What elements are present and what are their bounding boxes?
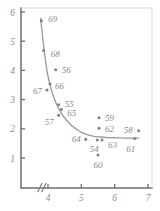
data-point-58[interactable] — [137, 129, 140, 132]
data-point-59[interactable] — [98, 116, 101, 119]
data-point-69[interactable] — [40, 19, 43, 22]
y-tick-label-2: 2 — [10, 124, 15, 134]
y-tick-label-4: 4 — [10, 66, 15, 76]
chart-background — [0, 0, 160, 211]
data-point-65[interactable] — [60, 108, 63, 111]
point-label-63: 63 — [108, 140, 118, 150]
x-tick-label-4: 4 — [46, 193, 51, 203]
point-label-58: 58 — [124, 125, 134, 135]
point-label-54: 54 — [90, 144, 100, 154]
x-tick-label-5: 5 — [79, 193, 84, 203]
data-point-56[interactable] — [54, 68, 57, 71]
y-tick-label-3: 3 — [9, 95, 15, 105]
data-point-67[interactable] — [46, 88, 49, 91]
point-label-64: 64 — [72, 134, 82, 144]
data-point-68[interactable] — [42, 49, 45, 52]
scatter-chart: 4567 123456 6968566667556557596258645463… — [0, 0, 160, 211]
point-label-60: 60 — [94, 160, 104, 170]
y-tick-label-6: 6 — [10, 8, 15, 18]
data-point-62[interactable] — [98, 127, 101, 130]
data-point-63[interactable] — [101, 138, 104, 141]
x-tick-label-6: 6 — [112, 193, 117, 203]
data-point-60[interactable] — [97, 154, 100, 157]
y-tick-label-1: 1 — [10, 154, 15, 164]
point-label-59: 59 — [105, 113, 115, 123]
point-label-66: 66 — [55, 81, 65, 91]
point-label-56: 56 — [62, 65, 72, 75]
point-label-67: 67 — [33, 86, 43, 96]
data-point-54[interactable] — [96, 138, 99, 141]
point-label-62: 62 — [105, 124, 115, 134]
y-tick-label-5: 5 — [10, 37, 15, 47]
data-point-61[interactable] — [133, 137, 136, 140]
point-label-61: 61 — [126, 144, 135, 154]
chart-canvas: 4567 123456 6968566667556557596258645463… — [0, 0, 160, 211]
data-point-57[interactable] — [57, 114, 60, 117]
point-label-57: 57 — [45, 117, 55, 127]
point-label-65: 65 — [67, 108, 77, 118]
data-point-66[interactable] — [49, 83, 52, 86]
point-label-69: 69 — [48, 14, 58, 24]
point-label-68: 68 — [51, 49, 61, 59]
data-point-64[interactable] — [84, 138, 87, 141]
data-point-55[interactable] — [57, 103, 60, 106]
